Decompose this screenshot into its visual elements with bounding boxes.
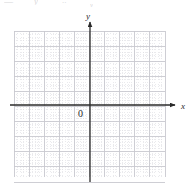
x-axis-label: x: [181, 101, 185, 111]
y-axis-label: y: [86, 11, 90, 21]
origin-label: 0: [78, 108, 83, 119]
figure-canvas: — y .. v y x 0: [0, 0, 196, 194]
coordinate-plane: y x 0: [0, 0, 196, 194]
coordinate-plane-svg: [0, 0, 196, 194]
